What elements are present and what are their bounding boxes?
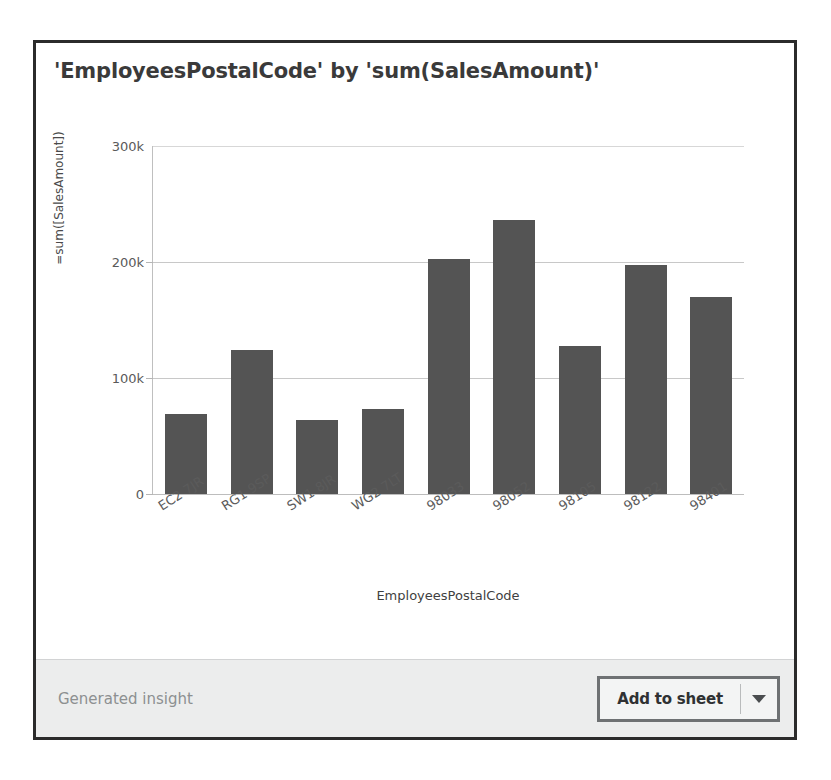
bar-slot: [547, 146, 613, 494]
chevron-down-icon: [752, 695, 766, 703]
x-tick-slot: 98033: [415, 497, 481, 587]
page-title: 'EmployeesPostalCode' by 'sum(SalesAmoun…: [36, 43, 794, 83]
bar-slot: [481, 146, 547, 494]
add-to-sheet-button[interactable]: Add to sheet: [600, 679, 740, 719]
x-axis-title: EmployeesPostalCode: [152, 588, 744, 603]
chart-area: =sum([SalesAmount]) 0100k200k300k EC2 7J…: [36, 83, 794, 659]
x-tick-slot: 98401: [678, 497, 744, 587]
bar-slot: [350, 146, 416, 494]
bar[interactable]: [559, 346, 601, 494]
x-tick-slot: RG1 9SP: [218, 497, 284, 587]
add-to-sheet-split-button[interactable]: Add to sheet: [597, 676, 780, 722]
card-footer: Generated insight Add to sheet: [36, 659, 794, 737]
bar-slot: [678, 146, 744, 494]
x-tick-slot: WG2 7LT: [349, 497, 415, 587]
insight-card: 'EmployeesPostalCode' by 'sum(SalesAmoun…: [33, 40, 797, 740]
bar-slot: [613, 146, 679, 494]
bar-slot: [284, 146, 350, 494]
y-axis-tick-mark: [146, 494, 153, 495]
x-tick-slot: EC2 7JR: [152, 497, 218, 587]
bar[interactable]: [625, 265, 667, 494]
bar-series: [153, 146, 744, 494]
add-to-sheet-dropdown-button[interactable]: [741, 679, 777, 719]
y-axis-tick-label: 200k: [112, 255, 144, 270]
y-axis-tick-label: 0: [136, 487, 144, 502]
bar-slot: [219, 146, 285, 494]
y-axis-tick-mark: [146, 262, 153, 263]
y-axis-tick-mark: [146, 378, 153, 379]
x-tick-slot: 98122: [612, 497, 678, 587]
x-tick-slot: SW1 8JR: [284, 497, 350, 587]
bar-slot: [416, 146, 482, 494]
generated-insight-label: Generated insight: [58, 690, 597, 708]
bar-slot: [153, 146, 219, 494]
y-axis-tick-label: 300k: [112, 139, 144, 154]
bar[interactable]: [690, 297, 732, 494]
y-axis-tick-label: 100k: [112, 371, 144, 386]
x-axis-tick-labels: EC2 7JRRG1 9SPSW1 8JRWG2 7LT980339805298…: [152, 497, 744, 587]
x-tick-slot: 98052: [481, 497, 547, 587]
x-tick-slot: 98105: [547, 497, 613, 587]
bar[interactable]: [428, 259, 470, 494]
bar[interactable]: [493, 220, 535, 494]
plot-area: 0100k200k300k: [152, 146, 744, 494]
y-axis-title: =sum([SalesAmount]): [52, 108, 66, 288]
